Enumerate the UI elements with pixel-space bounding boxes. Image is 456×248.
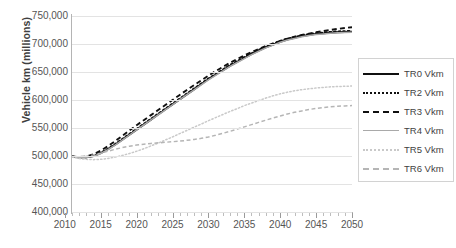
series-line-tr0	[72, 32, 352, 158]
y-axis-tick-label: 500,000	[6, 151, 68, 161]
x-axis-tick-label: 2010	[45, 219, 85, 230]
y-axis-tick-label: 550,000	[6, 123, 68, 133]
x-axis-minor-tick	[251, 213, 252, 216]
x-axis-minor-tick	[237, 213, 238, 216]
x-axis-minor-tick	[302, 213, 303, 216]
x-axis-minor-tick	[338, 213, 339, 216]
legend-item-label: TR6 Vkm	[399, 163, 444, 174]
series-line-tr2	[72, 31, 352, 158]
legend-item-label: TR4 Vkm	[399, 125, 444, 136]
x-axis-minor-tick	[79, 213, 80, 216]
x-axis-minor-tick	[151, 213, 152, 216]
gridline	[72, 156, 352, 157]
x-axis-minor-tick	[295, 213, 296, 216]
x-axis-minor-tick	[345, 213, 346, 216]
x-axis-major-tick	[280, 213, 281, 218]
legend-swatch-icon	[363, 106, 399, 118]
y-axis-tick-labels: 400,000450,000500,000550,000600,000650,0…	[6, 0, 68, 248]
x-axis-minor-tick	[129, 213, 130, 216]
chart-legend: TR0 VkmTR2 VkmTR3 VkmTR4 VkmTR5 VkmTR6 V…	[358, 58, 454, 182]
legend-item[interactable]: TR0 Vkm	[363, 64, 449, 83]
x-axis-tick-label: 2035	[224, 219, 264, 230]
x-axis-major-tick	[173, 213, 174, 218]
line-chart: Vehicle km (millions) 400,000450,000500,…	[0, 0, 456, 248]
gridline	[72, 184, 352, 185]
x-axis-major-tick	[316, 213, 317, 218]
x-axis-tick-label: 2025	[153, 219, 193, 230]
x-axis-major-tick	[244, 213, 245, 218]
x-axis-tick-label: 2050	[332, 219, 372, 230]
x-axis-major-tick	[208, 213, 209, 218]
legend-item-label: TR3 Vkm	[399, 106, 444, 117]
x-axis-minor-tick	[201, 213, 202, 216]
legend-item[interactable]: TR6 Vkm	[363, 159, 449, 178]
x-axis-minor-tick	[330, 213, 331, 216]
series-line-tr4	[72, 32, 352, 157]
x-axis-minor-tick	[223, 213, 224, 216]
x-axis-tick-label: 2015	[81, 219, 121, 230]
x-axis-major-tick	[101, 213, 102, 218]
x-axis-tick-label: 2030	[188, 219, 228, 230]
plot-area	[72, 16, 352, 212]
x-axis-minor-tick	[122, 213, 123, 216]
x-axis-minor-tick	[165, 213, 166, 216]
x-axis-tick-label: 2040	[260, 219, 300, 230]
series-line-tr5	[72, 86, 352, 160]
gridline	[72, 212, 352, 213]
series-line-tr3	[72, 27, 352, 157]
y-axis-tick-label: 400,000	[6, 207, 68, 217]
y-axis-tick-label: 750,000	[6, 11, 68, 21]
x-axis-minor-tick	[115, 213, 116, 216]
legend-swatch-icon	[363, 87, 399, 99]
legend-swatch-icon	[363, 125, 399, 137]
gridline	[72, 44, 352, 45]
gridline	[72, 128, 352, 129]
legend-item-label: TR2 Vkm	[399, 87, 444, 98]
x-axis-minor-tick	[287, 213, 288, 216]
data-series-group	[72, 16, 352, 212]
x-axis-minor-tick	[323, 213, 324, 216]
gridline	[72, 72, 352, 73]
x-axis-minor-tick	[273, 213, 274, 216]
x-axis-minor-tick	[266, 213, 267, 216]
legend-item[interactable]: TR4 Vkm	[363, 121, 449, 140]
x-axis-minor-tick	[86, 213, 87, 216]
y-axis-tick-label: 650,000	[6, 67, 68, 77]
y-axis-tick-label: 600,000	[6, 95, 68, 105]
x-axis-major-tick	[352, 213, 353, 218]
x-axis-minor-tick	[216, 213, 217, 216]
x-axis-minor-tick	[230, 213, 231, 216]
x-axis-tick-label: 2020	[117, 219, 157, 230]
legend-item-label: TR0 Vkm	[399, 68, 444, 79]
y-axis-tick-label: 700,000	[6, 39, 68, 49]
x-axis-minor-tick	[187, 213, 188, 216]
x-axis-major-tick	[137, 213, 138, 218]
x-axis-major-tick	[65, 213, 66, 218]
x-axis-tick-label: 2045	[296, 219, 336, 230]
x-axis-minor-tick	[144, 213, 145, 216]
legend-item-label: TR5 Vkm	[399, 144, 444, 155]
x-axis-minor-tick	[259, 213, 260, 216]
x-axis-minor-tick	[72, 213, 73, 216]
x-axis-minor-tick	[94, 213, 95, 216]
legend-item[interactable]: TR2 Vkm	[363, 83, 449, 102]
x-axis-minor-tick	[180, 213, 181, 216]
x-axis-minor-tick	[158, 213, 159, 216]
x-axis-minor-tick	[108, 213, 109, 216]
legend-swatch-icon	[363, 163, 399, 175]
gridline	[72, 16, 352, 17]
gridline	[72, 100, 352, 101]
x-axis-minor-tick	[194, 213, 195, 216]
legend-item[interactable]: TR5 Vkm	[363, 140, 449, 159]
legend-swatch-icon	[363, 144, 399, 156]
series-line-tr6	[72, 106, 352, 157]
legend-item[interactable]: TR3 Vkm	[363, 102, 449, 121]
legend-swatch-icon	[363, 68, 399, 80]
x-axis-minor-tick	[309, 213, 310, 216]
y-axis-tick-label: 450,000	[6, 179, 68, 189]
